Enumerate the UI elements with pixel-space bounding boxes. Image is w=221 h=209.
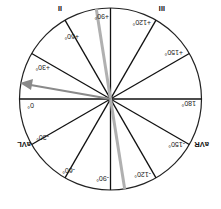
label-plus60: +60° — [64, 33, 79, 40]
hexaxial-diagram: 0° +30° +60° +90° +120° +150° 180° -150°… — [0, 0, 221, 209]
label-minus90: -90° — [96, 175, 109, 182]
label-0: 0° — [27, 102, 34, 109]
lead-aVR: aVR — [194, 140, 209, 149]
label-plus30: +30° — [35, 64, 50, 71]
label-180: 180° — [181, 100, 196, 107]
lead-aVL: aVL — [17, 140, 31, 149]
label-minus120: -120° — [134, 171, 151, 178]
lead-II: II — [58, 4, 62, 13]
label-plus90: +90° — [94, 13, 109, 20]
label-plus120: +120° — [132, 19, 151, 26]
label-minus60: -60° — [62, 167, 75, 174]
label-minus30: -30° — [36, 134, 49, 141]
label-minus150: -150° — [168, 141, 185, 148]
label-plus150: +150° — [164, 49, 183, 56]
lead-III: III — [159, 4, 165, 13]
